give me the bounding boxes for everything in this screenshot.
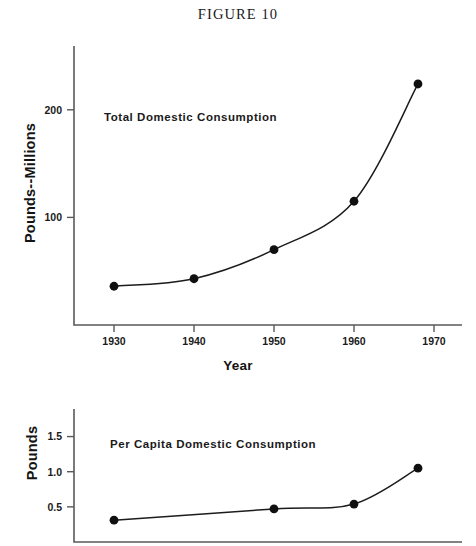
- chart-panel-per-capita-domestic-consumption: Pounds Per Capita Domestic Consumption 0…: [0, 390, 476, 546]
- y-tick-group-top: 100200: [44, 104, 74, 224]
- chart-panel-total-domestic-consumption: Pounds--Millions Total Domestic Consumpt…: [0, 30, 476, 370]
- data-point-marker: [270, 505, 279, 514]
- x-tick-label: 1940: [182, 335, 206, 347]
- series-line: [114, 84, 418, 286]
- chart-canvas-bottom: 0.51.01.5: [0, 390, 476, 546]
- axes-bottom: [74, 409, 462, 542]
- y-tick-label: 100: [44, 211, 62, 223]
- data-point-marker: [414, 464, 423, 473]
- x-tick-label: 1970: [422, 335, 446, 347]
- figure-title: FIGURE 10: [0, 6, 476, 23]
- data-points-top: [110, 80, 423, 291]
- data-point-marker: [350, 197, 359, 206]
- data-point-marker: [110, 282, 119, 291]
- y-tick-group-bottom: 0.51.01.5: [47, 430, 74, 512]
- data-point-marker: [350, 500, 359, 509]
- y-tick-label: 1.0: [47, 466, 62, 478]
- x-tick-group-top: 19301940195019601970: [102, 325, 446, 347]
- axis-lines-bottom: [74, 409, 462, 542]
- data-point-marker: [190, 274, 199, 283]
- data-curve-bottom: [114, 468, 418, 520]
- figure-root: FIGURE 10 Pounds--Millions Total Domesti…: [0, 0, 476, 546]
- x-tick-label: 1960: [342, 335, 366, 347]
- x-tick-label: 1930: [102, 335, 126, 347]
- chart-canvas-top: 100200 19301940195019601970: [0, 30, 476, 370]
- axis-lines-top: [74, 46, 462, 325]
- axes-top: [74, 46, 462, 325]
- y-tick-label: 1.5: [47, 430, 62, 442]
- data-curve-top: [114, 84, 418, 286]
- data-point-marker: [270, 245, 279, 254]
- data-point-marker: [414, 80, 423, 89]
- y-tick-label: 200: [44, 104, 62, 116]
- x-tick-label: 1950: [262, 335, 286, 347]
- series-line: [114, 468, 418, 520]
- data-point-marker: [110, 516, 119, 525]
- y-tick-label: 0.5: [47, 501, 62, 513]
